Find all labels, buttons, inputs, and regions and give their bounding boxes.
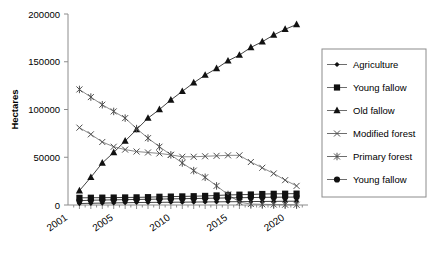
data-point-asterisk	[156, 143, 162, 151]
data-point-triangle	[213, 65, 220, 72]
chart-series-group	[76, 21, 300, 209]
x-axis-tick-labels: 20012005201020152020	[45, 211, 287, 233]
data-point-triangle	[224, 57, 231, 64]
data-point-triangle	[202, 71, 209, 78]
chart-figure: 050000100000150000200000 200120052010201…	[0, 0, 431, 271]
legend-marker-square-icon	[334, 84, 340, 90]
y-axis-tick-labels: 050000100000150000200000	[28, 9, 60, 211]
data-point-triangle	[270, 31, 277, 38]
y-axis-tick-label: 200000	[28, 9, 60, 20]
data-point-x	[88, 131, 94, 137]
data-point-circle	[259, 194, 265, 200]
data-point-x	[76, 125, 82, 131]
data-point-x	[99, 139, 105, 145]
x-axis-tick-label: 2015	[205, 211, 230, 233]
legend-label: Young fallow	[353, 174, 407, 185]
data-point-triangle	[179, 87, 186, 94]
data-point-asterisk	[88, 93, 94, 101]
data-point-circle	[179, 196, 185, 202]
data-point-asterisk	[99, 101, 105, 109]
data-point-asterisk	[134, 125, 140, 133]
x-axis-tick-label: 2001	[45, 211, 70, 233]
series-old-fallow-2	[76, 21, 300, 194]
data-point-circle	[293, 194, 299, 200]
data-point-asterisk	[145, 134, 151, 142]
series-primary-forest-4	[76, 86, 299, 209]
x-axis-tick-label: 2010	[147, 211, 172, 233]
y-axis-tick-label: 0	[55, 200, 60, 211]
data-point-circle	[133, 196, 139, 202]
data-point-circle	[88, 197, 94, 203]
legend-marker-circle-icon	[334, 176, 340, 182]
y-axis-title-text: Hectares	[9, 89, 20, 129]
legend-label: Old fallow	[353, 105, 395, 116]
data-point-asterisk	[202, 174, 208, 182]
data-point-triangle	[190, 79, 197, 86]
chart-axes	[64, 14, 308, 209]
legend-label: Young fallow	[353, 82, 407, 93]
data-point-circle	[202, 195, 208, 201]
data-point-circle	[236, 195, 242, 201]
data-point-x	[282, 177, 288, 183]
x-axis-tick-label: 2020	[262, 211, 287, 233]
data-point-asterisk	[122, 114, 128, 122]
data-point-asterisk	[179, 159, 185, 167]
series-line	[79, 89, 296, 204]
data-point-triangle	[282, 25, 289, 32]
series-modified-forest-3	[76, 125, 299, 189]
data-point-triangle	[236, 51, 243, 58]
legend-label: Primary forest	[353, 151, 412, 162]
data-point-circle	[168, 196, 174, 202]
data-point-circle	[225, 195, 231, 201]
data-point-triangle	[156, 106, 163, 113]
data-point-circle	[213, 195, 219, 201]
data-point-asterisk	[111, 108, 117, 116]
data-point-circle	[156, 196, 162, 202]
data-point-x	[294, 183, 300, 189]
axis-lines	[68, 14, 308, 205]
data-point-circle	[122, 197, 128, 203]
legend-label: Modified forest	[353, 128, 416, 139]
data-point-circle	[271, 194, 277, 200]
data-point-triangle	[259, 38, 266, 45]
data-point-triangle	[167, 96, 174, 103]
data-point-asterisk	[76, 86, 82, 94]
line-chart: 050000100000150000200000 200120052010201…	[0, 0, 431, 271]
y-axis-tick-label: 50000	[34, 152, 60, 163]
data-point-x	[248, 159, 254, 165]
data-point-x	[259, 165, 265, 171]
data-point-asterisk	[214, 182, 220, 190]
data-point-triangle	[247, 44, 254, 51]
data-point-circle	[248, 194, 254, 200]
y-axis-tick-label: 150000	[28, 56, 60, 67]
chart-legend: AgricultureYoung fallowOld fallowModifie…	[322, 49, 426, 197]
data-point-asterisk	[191, 167, 197, 175]
data-point-circle	[191, 195, 197, 201]
series-young-fallow-1	[76, 191, 299, 201]
data-point-x	[271, 170, 277, 176]
y-axis-tick-label: 100000	[28, 104, 60, 115]
data-point-circle	[76, 198, 82, 204]
y-axis-title: Hectares	[9, 89, 20, 129]
data-point-circle	[145, 196, 151, 202]
data-point-triangle	[293, 21, 300, 28]
data-point-circle	[99, 197, 105, 203]
series-line	[79, 128, 296, 186]
data-point-circle	[111, 197, 117, 203]
legend-label: Agriculture	[353, 59, 398, 70]
x-axis-tick-label: 2005	[90, 211, 115, 233]
data-point-triangle	[144, 114, 151, 121]
data-point-triangle	[99, 159, 106, 166]
data-point-circle	[282, 194, 288, 200]
